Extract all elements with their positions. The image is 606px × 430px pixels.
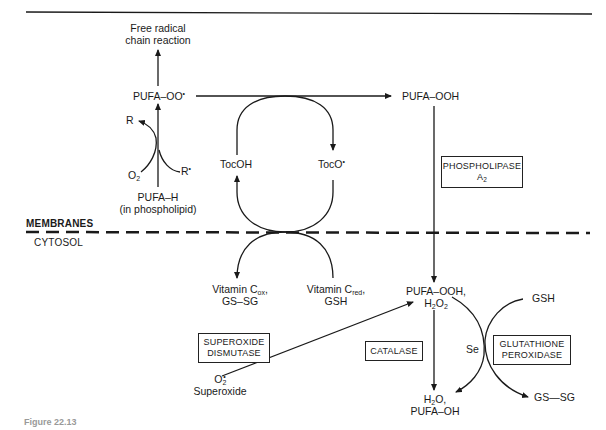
curve-r-radical xyxy=(159,150,180,172)
membrane-divider xyxy=(26,232,590,233)
pufa-ooh-h2o2-label: PUFA–OOH, H2O2 xyxy=(404,285,468,309)
tocoh-label: TocOH xyxy=(220,158,252,170)
top-rule xyxy=(26,12,592,14)
arc-vitc-left xyxy=(237,232,285,278)
vitamin-c-ox-label: Vitamin Cox, GS–SG xyxy=(204,283,276,307)
arc-toco-top xyxy=(237,96,333,155)
glutathione-peroxidase-box: GLUTATHIONE PEROXIDASE xyxy=(493,335,571,365)
gsh-label: GSH xyxy=(532,292,555,304)
selenium-label: Se xyxy=(466,343,479,355)
r-radical-label: R• xyxy=(181,165,191,177)
superoxide-dismutase-box: SUPEROXIDE DISMUTASE xyxy=(198,333,270,363)
r-product-label: R xyxy=(126,114,134,126)
pufa-ooh-label: PUFA–OOH xyxy=(402,90,459,102)
arrow-to-r xyxy=(139,121,156,172)
cytosol-label: CYTOSOL xyxy=(34,237,83,248)
pathway-diagram xyxy=(0,0,606,430)
vitamin-c-red-label: Vitamin Cred, GSH xyxy=(298,283,374,307)
pufa-oo-radical-label: PUFA–OO• xyxy=(133,90,185,102)
oxygen-label: O2 xyxy=(128,169,140,181)
pufa-h-label: PUFA–H (in phospholipid) xyxy=(116,191,200,215)
phospholipase-box: PHOSPHOLIPASE A2 xyxy=(441,156,523,188)
figure-caption: Figure 22.13 xyxy=(24,417,77,427)
superoxide-label: O2• Superoxide xyxy=(190,373,250,397)
gssg-label: GS—SG xyxy=(534,391,575,403)
toco-radical-label: TocO• xyxy=(318,158,345,170)
h2o-pufa-oh-label: H2O, PUFA–OH xyxy=(405,393,465,417)
arc-vitc-right xyxy=(285,232,333,278)
arc-toco-bottom xyxy=(237,176,333,232)
catalase-box: CATALASE xyxy=(365,341,423,361)
free-radical-label: Free radical chain reaction xyxy=(120,22,196,46)
membranes-label: MEMBRANES xyxy=(26,218,93,229)
